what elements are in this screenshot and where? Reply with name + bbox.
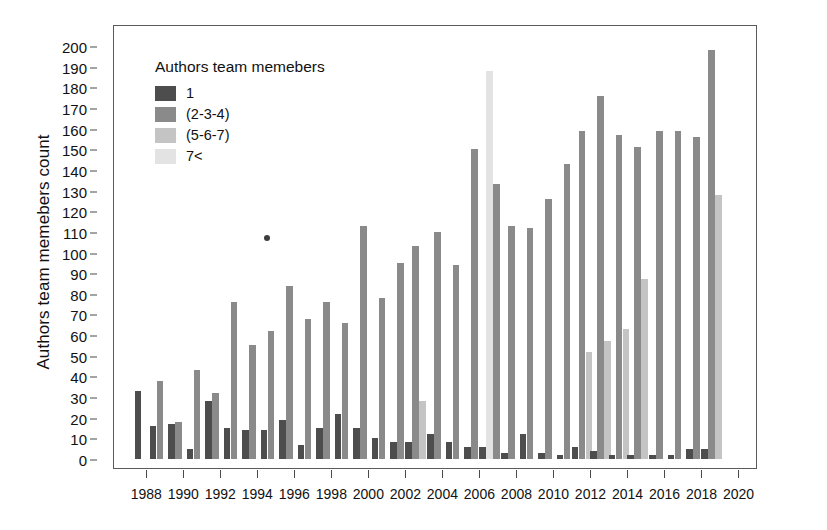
x-axis-tick-label: 1996 bbox=[279, 487, 310, 501]
x-axis-tick-label: 2000 bbox=[353, 487, 384, 501]
x-axis-tick-mark bbox=[479, 470, 480, 478]
x-axis-tick-label: 2006 bbox=[464, 487, 495, 501]
legend-item-label: (5-6-7) bbox=[186, 128, 230, 143]
x-axis-tick-label: 2008 bbox=[501, 487, 532, 501]
legend-title: Authors team memebers bbox=[155, 58, 395, 76]
x-axis-tick-mark bbox=[294, 470, 295, 478]
x-axis-tick-label: 1988 bbox=[131, 487, 162, 501]
legend-item-label: (2-3-4) bbox=[186, 107, 230, 122]
x-axis-tick-mark bbox=[220, 470, 221, 478]
legend-swatch-icon bbox=[155, 107, 176, 122]
x-axis-tick-mark bbox=[257, 470, 258, 478]
legend-item: 1 bbox=[155, 83, 395, 103]
x-axis-tick-mark bbox=[590, 470, 591, 478]
x-axis-tick-mark bbox=[516, 470, 517, 478]
x-axis-tick-mark bbox=[183, 470, 184, 478]
x-axis-tick-label: 1992 bbox=[205, 487, 236, 501]
legend-item: (5-6-7) bbox=[155, 125, 395, 145]
legend-items: 1(2-3-4)(5-6-7)7< bbox=[155, 83, 395, 166]
x-axis-tick-mark bbox=[738, 470, 739, 478]
x-axis-tick-mark bbox=[627, 470, 628, 478]
x-axis-tick-mark bbox=[405, 470, 406, 478]
legend-item-label: 1 bbox=[186, 86, 194, 101]
x-axis-tick-label: 1994 bbox=[242, 487, 273, 501]
x-axis-tick-label: 1998 bbox=[316, 487, 347, 501]
x-axis-tick-label: 2018 bbox=[686, 487, 717, 501]
x-axis-tick-mark bbox=[553, 470, 554, 478]
x-axis-tick-label: 2004 bbox=[427, 487, 458, 501]
x-axis-tick-label: 1990 bbox=[168, 487, 199, 501]
x-axis-tick-mark bbox=[368, 470, 369, 478]
legend-swatch-icon bbox=[155, 128, 176, 143]
x-axis-tick-mark bbox=[664, 470, 665, 478]
legend-swatch-icon bbox=[155, 86, 176, 101]
legend: Authors team memebers 1(2-3-4)(5-6-7)7< bbox=[155, 58, 395, 167]
x-axis-tick-label: 2014 bbox=[612, 487, 643, 501]
x-axis-tick-mark bbox=[701, 470, 702, 478]
x-axis-tick-mark bbox=[331, 470, 332, 478]
legend-item: (2-3-4) bbox=[155, 104, 395, 124]
x-axis-tick-label: 2012 bbox=[575, 487, 606, 501]
x-axis-tick-labels: 1988199019921994199619982000200220042006… bbox=[0, 0, 827, 530]
legend-item-label: 7< bbox=[186, 149, 203, 164]
x-axis-tick-label: 2002 bbox=[390, 487, 421, 501]
legend-swatch-icon bbox=[155, 149, 176, 164]
x-axis-tick-label: 2016 bbox=[649, 487, 680, 501]
x-axis-tick-mark bbox=[146, 470, 147, 478]
x-axis-tick-label: 2010 bbox=[538, 487, 569, 501]
bar-chart: Authors team memebers count 010203040506… bbox=[0, 0, 827, 530]
legend-item: 7< bbox=[155, 146, 395, 166]
x-axis-tick-label: 2020 bbox=[723, 487, 754, 501]
x-axis-tick-mark bbox=[442, 470, 443, 478]
